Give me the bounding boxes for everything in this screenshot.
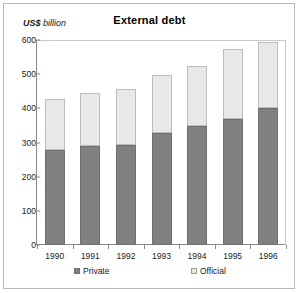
- x-axis-tick-mark: [144, 245, 145, 249]
- chart-screenshot: US$ billion External debt 01002003004005…: [0, 0, 299, 293]
- legend-swatch-official-icon: [191, 268, 197, 274]
- bar-segment-official: [116, 89, 136, 145]
- x-axis-tick-mark: [286, 245, 287, 249]
- x-axis-tick-label: 1991: [73, 251, 107, 261]
- bar-segment-official: [258, 42, 278, 108]
- bar-segment-private: [223, 119, 243, 245]
- x-axis-tick-mark: [37, 245, 38, 249]
- legend-item-private: Private: [74, 266, 109, 276]
- bar-1990: [45, 99, 65, 245]
- bar-segment-official: [223, 49, 243, 119]
- x-axis-tick-label: 1993: [145, 251, 179, 261]
- bar-segment-private: [187, 126, 207, 245]
- bar-1992: [116, 89, 136, 245]
- bar-segment-private: [116, 145, 136, 245]
- bar-1996: [258, 42, 278, 245]
- legend-swatch-private-icon: [74, 268, 80, 274]
- chart-legend: PrivateOfficial: [36, 266, 286, 280]
- x-axis-tick-label: 1995: [216, 251, 250, 261]
- x-axis-tick-label: 1994: [180, 251, 214, 261]
- chart-title: External debt: [0, 14, 299, 26]
- bar-segment-official: [80, 93, 100, 146]
- bar-segment-private: [45, 150, 65, 245]
- x-axis-tick-mark: [179, 245, 180, 249]
- bar-1993: [152, 75, 172, 245]
- legend-label-private: Private: [83, 266, 109, 276]
- x-axis-tick-label: 1996: [251, 251, 285, 261]
- bar-segment-official: [45, 99, 65, 150]
- x-axis-tick-label: 1990: [38, 251, 72, 261]
- bar-segment-private: [258, 108, 278, 245]
- legend-item-official: Official: [191, 266, 226, 276]
- bar-1994: [187, 66, 207, 245]
- bar-segment-private: [152, 133, 172, 245]
- x-axis-tick-mark: [73, 245, 74, 249]
- bar-segment-official: [152, 75, 172, 133]
- bar-1995: [223, 49, 243, 245]
- x-axis-tick-label: 1992: [109, 251, 143, 261]
- bar-1991: [80, 93, 100, 245]
- legend-label-official: Official: [200, 266, 226, 276]
- x-axis-tick-mark: [215, 245, 216, 249]
- x-axis-tick-mark: [108, 245, 109, 249]
- plot-area: [37, 40, 286, 245]
- x-axis-tick-mark: [250, 245, 251, 249]
- bar-segment-official: [187, 66, 207, 126]
- bar-segment-private: [80, 146, 100, 245]
